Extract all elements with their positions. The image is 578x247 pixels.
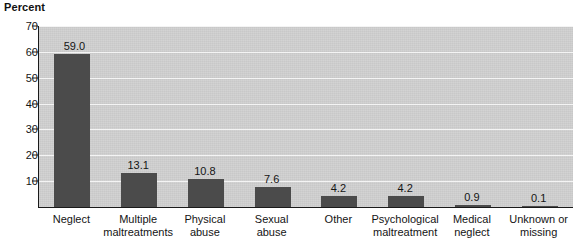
bar-value-label: 0.9 [452,191,492,203]
bar-chart: Percent 10203040506070 59.0Neglect13.1Mu… [0,0,578,247]
gridline [39,26,573,27]
bar-value-label: 0.1 [519,192,559,204]
gridline [39,129,573,130]
bar-value-label: 7.6 [252,173,292,185]
bar-value-label: 13.1 [118,159,158,171]
bar-value-label: 59.0 [54,40,94,52]
bar [321,196,357,207]
bar [121,173,157,207]
plot-texture [39,26,573,207]
gridline [39,78,573,79]
bar [522,206,558,208]
bar-value-label: 10.8 [185,165,225,177]
plot-area [38,26,573,208]
y-axis: 10203040506070 [0,0,38,247]
bar [455,205,491,207]
bar [54,54,90,207]
x-category-label: Unknown or missing [498,213,578,238]
gridline [39,155,573,156]
bar [255,187,291,207]
bar-value-label: 4.2 [385,182,425,194]
bar [188,179,224,207]
bar [388,196,424,207]
bar-value-label: 4.2 [318,182,358,194]
gridline [39,52,573,53]
gridline [39,104,573,105]
gridline [39,181,573,182]
